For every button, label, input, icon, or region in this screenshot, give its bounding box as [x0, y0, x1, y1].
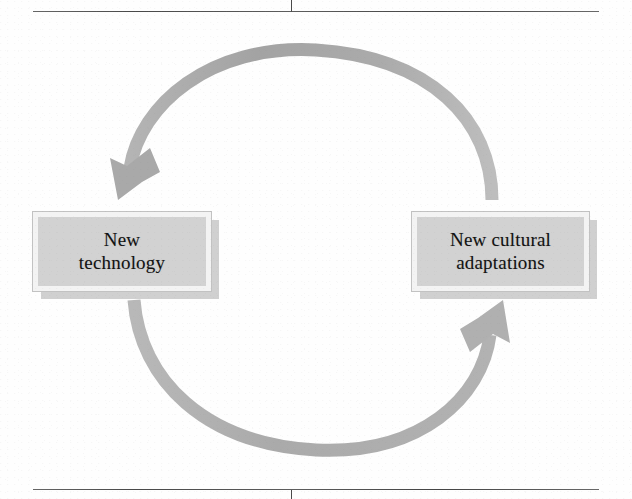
node-new-cultural-adaptations: New cultural adaptations [412, 212, 589, 291]
bottom-arc-path [134, 300, 490, 450]
page-tick-bottom [291, 490, 292, 499]
node-new-technology-line2: technology [79, 252, 165, 273]
page-rule-bottom [33, 489, 599, 490]
node-new-technology: New technology [33, 212, 211, 291]
node-new-technology-label: New technology [75, 229, 169, 274]
node-new-cultural-adaptations-line1: New cultural [450, 229, 551, 250]
node-new-technology-line1: New [104, 229, 140, 250]
figure-page: New technology New cultural adaptations [0, 0, 632, 499]
node-new-cultural-adaptations-line2: adaptations [456, 252, 545, 273]
node-new-cultural-adaptations-label: New cultural adaptations [446, 229, 555, 274]
top-arc-path [130, 50, 492, 200]
